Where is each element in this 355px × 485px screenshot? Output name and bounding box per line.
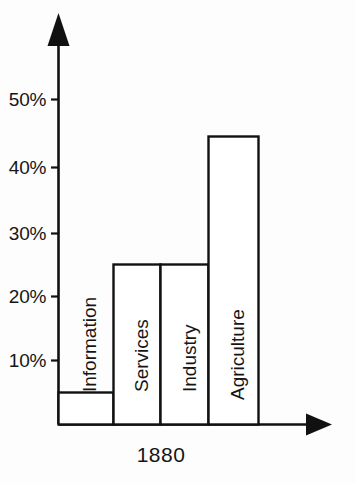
y-axis-arrow-icon — [48, 13, 70, 46]
y-tick-label-20: 20% — [0, 287, 46, 306]
bar-label-information: Information — [80, 297, 99, 392]
x-axis-label: 1880 — [106, 444, 216, 465]
bar-information[interactable] — [59, 393, 114, 425]
y-tick-label-10: 10% — [0, 351, 46, 370]
bar-label-agriculture: Agriculture — [228, 309, 247, 400]
bar-label-industry: Industry — [180, 324, 199, 392]
y-tick-label-30: 30% — [0, 224, 46, 243]
y-tick-label-40: 40% — [0, 158, 46, 177]
x-axis-arrow-icon — [306, 414, 332, 436]
chart-canvas — [0, 0, 355, 485]
y-tick-label-50: 50% — [0, 90, 46, 109]
bar-label-services: Services — [132, 319, 151, 392]
bar-chart: 50% 40% 30% 20% 10% Information Services… — [0, 0, 355, 485]
